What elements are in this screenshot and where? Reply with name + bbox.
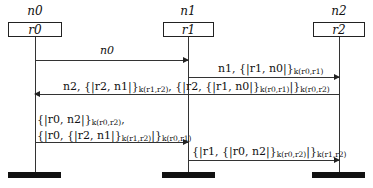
- lifeline-n2-end-bar: [312, 172, 365, 178]
- participant-n1-name: n1: [158, 4, 218, 18]
- message-4-label: {|r0, n2|}k(r0,r2), {|r0, {|r2, n1|}k(r1…: [37, 113, 191, 145]
- message-4-arrow: [35, 142, 188, 143]
- message-3-arrow: [35, 94, 339, 95]
- message-5-label: {|r1, {|r0, n2|}k(r0,r2)|}k(r1,r2): [192, 145, 346, 161]
- participant-n2-role-box: r2: [313, 22, 365, 37]
- message-2-arrow: [188, 77, 339, 78]
- message-5-arrow: [188, 160, 339, 161]
- participant-n1-role-box: r1: [163, 22, 214, 37]
- lifeline-n0: [35, 37, 36, 173]
- participant-n0-role-box: r0: [8, 22, 62, 37]
- lifeline-n0-end-bar: [8, 172, 61, 178]
- message-1-label: n0: [100, 44, 114, 57]
- lifeline-n1-end-bar: [162, 172, 215, 178]
- participant-n2-name: n2: [309, 4, 369, 18]
- message-1-arrow: [35, 60, 188, 61]
- message-2-label: n1, {|r1, n0|}k(r0,r1): [218, 62, 323, 78]
- participant-n0-name: n0: [5, 4, 65, 18]
